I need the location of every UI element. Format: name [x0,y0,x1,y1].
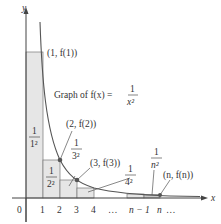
function-label: Graph of f(x) = [54,90,112,101]
svg-text:3: 3 [74,205,79,215]
svg-text:0: 0 [17,205,22,215]
svg-text:1: 1 [154,147,159,157]
svg-text:1: 1 [128,164,133,174]
point-label-n: (n, f(n)) [163,170,193,181]
function-denominator: x² [126,97,134,107]
svg-text:1: 1 [40,205,45,215]
svg-text:n²: n² [151,160,159,170]
x-axis-arrow-icon [201,196,208,201]
point-label-3: (3, f(3)) [90,158,120,169]
point-label-2: (2, f(2)) [66,119,96,130]
svg-text:2: 2 [57,205,62,215]
svg-text:4²: 4² [125,177,133,187]
x-tick-labels: 0 1 2 3 4 … n − 1 n … [17,205,176,215]
fraction-3: 1 3² [71,138,82,161]
y-axis-label: y [21,3,27,13]
riemann-sum-diagram: y x 0 1 2 3 4 … n − 1 n … (1, f(1)) (2, … [0,0,221,224]
function-numerator: 1 [130,84,135,94]
x-axis-label: x [210,193,216,203]
svg-text:1: 1 [49,166,54,176]
svg-text:2²: 2² [47,179,55,189]
fraction-n: 1 n² [151,147,162,170]
rect-1 [26,52,43,198]
rect-4 [77,188,94,198]
svg-text:4: 4 [91,205,96,215]
svg-text:n − 1: n − 1 [129,205,150,215]
svg-text:3²: 3² [72,151,80,161]
svg-text:…: … [166,205,176,215]
svg-text:1: 1 [32,126,37,136]
point-label-1: (1, f(1)) [47,48,77,59]
svg-text:1: 1 [74,138,79,148]
rect-3 [60,180,77,198]
fraction-4: 1 4² [125,164,136,187]
svg-text:…: … [108,205,118,215]
svg-text:n: n [157,205,162,215]
svg-text:1²: 1² [30,139,38,149]
